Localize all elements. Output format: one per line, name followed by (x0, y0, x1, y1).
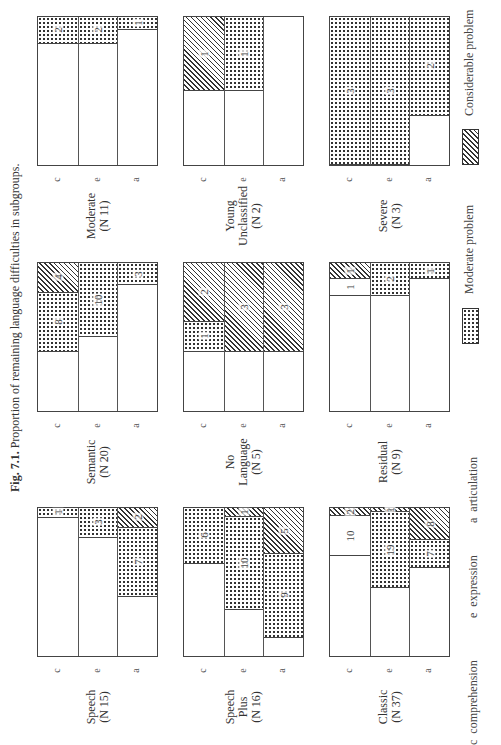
panel-moderate: 221 (37, 16, 158, 166)
axis-label-c: c (51, 177, 62, 181)
group-name: Residual (377, 430, 390, 494)
group-name: Classic (377, 675, 390, 739)
segment-moderate: 3 (371, 17, 410, 165)
group-n: (N 16) (250, 675, 263, 739)
segment-moderate: 10 (79, 263, 118, 337)
segment-considerable: 2 (118, 508, 157, 528)
legend-swatch-considerable (462, 129, 479, 165)
panel-no-language: 2133 (183, 262, 304, 412)
group-n: (N 20) (98, 430, 111, 494)
group-n: (N 2) (250, 184, 263, 248)
segment-moderate: 3 (330, 17, 370, 165)
segment-value: 3 (238, 303, 249, 311)
bar-c: 48 (38, 263, 78, 411)
segment-value: 19 (384, 543, 395, 556)
axis-label-c: c (343, 177, 354, 181)
group-name: Severe (377, 184, 390, 248)
axis-label-a: a (276, 668, 287, 672)
figure-caption: Fig. 7.1. Proportion of remaining langua… (8, 164, 23, 492)
axis-label-e: e (90, 423, 101, 427)
segment-considerable: 3 (264, 263, 303, 352)
segment-unshaded: 1 (330, 279, 370, 295)
group-n: (N 3) (390, 184, 403, 248)
axis-label-e: e (90, 177, 101, 181)
segment-value: 10 (344, 529, 355, 542)
axis-label-e: e (236, 423, 247, 427)
panel-classic: 21011987 (329, 507, 450, 657)
segment-value: 10 (238, 557, 249, 570)
segment-moderate: 6 (184, 508, 224, 564)
legend-label-considerable: Considerable problem (462, 10, 477, 116)
bar-a: 1 (117, 17, 157, 165)
segment-considerable: 3 (225, 263, 264, 352)
segment-value: 2 (424, 62, 435, 70)
segment-value: 2 (198, 288, 209, 296)
segment-moderate: 1 (184, 322, 224, 352)
segment-value: 1 (198, 50, 209, 58)
segment-moderate: 2 (410, 17, 449, 116)
axis-label-e: e (382, 668, 393, 672)
key-comprehension: c comprehension (466, 660, 481, 745)
group-name: Speech (85, 675, 98, 739)
group-n: (N 15) (98, 675, 111, 739)
segment-value: 3 (92, 519, 103, 527)
axis-label-a: a (130, 177, 141, 181)
bar-a: 3 (117, 263, 157, 411)
segment-moderate: 1 (118, 17, 157, 30)
segment-value: 6 (198, 532, 209, 540)
segment-value: 8 (52, 318, 63, 326)
group-label: Severe(N 3) (377, 184, 403, 248)
segment-value: 2 (52, 26, 63, 34)
segment-value: 2 (132, 514, 143, 522)
panel-residual: 1121 (329, 262, 450, 412)
segment-value: 2 (344, 508, 355, 516)
segment-value: 2 (384, 275, 395, 283)
bar-c: 1 (184, 17, 224, 165)
group-label: Speech(N 15) (85, 675, 111, 739)
segment-moderate: 19 (371, 512, 410, 588)
bar-e: 119 (370, 508, 410, 656)
axis-label-c: c (51, 668, 62, 672)
bar-c: 6 (184, 508, 224, 656)
segment-value: 7 (424, 550, 435, 558)
segment-value: 7 (132, 558, 143, 566)
figure-label: Fig. 7.1. (8, 451, 22, 492)
panel-semantic: 48103 (37, 262, 158, 412)
group-label: Moderate(N 11) (85, 184, 111, 248)
segment-moderate: 1 (225, 17, 264, 91)
bar-c: 2 (38, 17, 78, 165)
legend-label-moderate: Moderate problem (462, 205, 477, 294)
bar-a: 1 (409, 263, 449, 411)
axis-label-c: c (343, 668, 354, 672)
bar-a: 2 (409, 17, 449, 165)
segment-moderate: 1 (410, 263, 449, 279)
axis-label-e: e (382, 423, 393, 427)
segment-moderate: 2 (79, 17, 118, 44)
axis-label-a: a (130, 423, 141, 427)
segment-moderate: 1 (38, 508, 78, 518)
bar-e: 1 (224, 17, 264, 165)
segment-considerable: 8 (410, 508, 449, 540)
segment-moderate: 7 (410, 540, 449, 568)
axis-label-a: a (422, 423, 433, 427)
panel-speech-plus: 611059 (183, 507, 304, 657)
segment-value: 1 (238, 50, 249, 58)
segment-moderate: 7 (118, 528, 157, 597)
group-label: NoLanguage(N 5) (224, 430, 263, 494)
segment-value: 10 (92, 293, 103, 306)
segment-moderate: 10 (225, 517, 264, 610)
segment-value: 3 (384, 87, 395, 95)
segment-considerable: 1 (184, 17, 224, 91)
axis-label-a: a (422, 177, 433, 181)
segment-value: 1 (424, 267, 435, 275)
segment-unshaded: 10 (330, 516, 370, 556)
segment-value: 5 (278, 527, 289, 535)
bar-e: 3 (370, 17, 410, 165)
segment-value: 9 (278, 592, 289, 600)
segment-moderate: 2 (38, 17, 78, 44)
group-label: Semantic(N 20) (85, 430, 111, 494)
bar-a: 3 (263, 263, 303, 411)
segment-value: 8 (424, 520, 435, 528)
panel-young-unclassified: 11 (183, 16, 304, 166)
segment-considerable: 1 (225, 508, 264, 517)
